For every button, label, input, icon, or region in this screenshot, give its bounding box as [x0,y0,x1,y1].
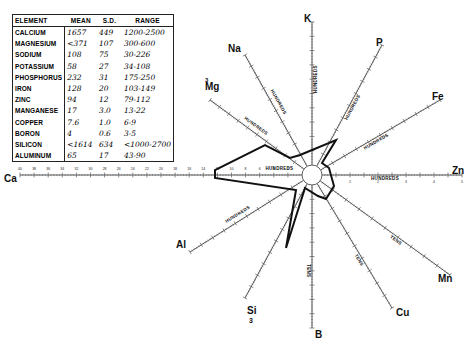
zn-tick-label: 4 [433,180,435,184]
ca-tick-label: 32 [74,167,78,171]
ca-tick-label: 18 [173,167,177,171]
ca-tick-label: 10 [230,167,234,171]
axis-unit-k: HUNDREDS [313,65,318,93]
axis-label-na: Na [228,43,241,54]
axis-label-k: K [304,13,312,24]
ca-tick-label: 38 [32,167,36,171]
ca-tick-label: 4 [273,167,275,171]
axis-unit-al: HUNDREDS [224,205,250,224]
zn-tick-label: 1 [349,180,351,184]
center-circle [302,165,322,185]
axis-sub-si: 3 [249,317,253,324]
zn-tick-label: 3 [405,180,407,184]
axis-unit-b: TENS [306,264,311,277]
axis-label-mn: Mn [438,273,452,284]
ca-tick-label: 30 [89,167,93,171]
axis-label-al: Al [176,239,186,250]
axis-labels-group: HUNDREDSKHUNDREDSPHUNDREDSFeHUNDREDSZnTE… [4,13,464,340]
ca-tick-label: 20 [159,167,163,171]
axis-label-cu: Cu [396,307,409,318]
axes-group [20,22,462,328]
ca-tick-label: 14 [201,167,205,171]
axis-unit-cu: TENS [354,253,365,267]
ca-tick-label: 22 [145,167,149,171]
ca-tick-label: 2 [287,167,289,171]
zn-tick-label: 5 [461,180,463,184]
ca-tick-label: 34 [60,167,64,171]
axis-label-zn: Zn [452,165,464,176]
axis-label-fe: Fe [432,91,444,102]
axis-label-b: B [315,329,322,340]
ca-tick-label: 26 [117,167,121,171]
axis-unit-ca: HUNDREDS [265,166,293,171]
ca-tick-label: 12 [215,167,219,171]
ca-tick-label: 40 [18,167,22,171]
axis-unit-mg: HUNDREDS [243,116,268,137]
ca-tick-label: 36 [46,167,50,171]
ca-tick-label: 16 [187,167,191,171]
axis-unit-zn: HUNDREDS [371,176,399,181]
axis-unit-mn: TENS [389,234,403,246]
axis-unit-na: HUNDREDS [270,89,288,116]
radar-diagram: HUNDREDSKHUNDREDSPHUNDREDSFeHUNDREDSZnTE… [0,0,475,340]
ca-tick-label: 8 [245,167,247,171]
axis-label-si: Si [247,305,257,316]
ca-tick-label: 28 [103,167,107,171]
axis-unit-fe: HUNDREDS [363,132,390,150]
zn-tick-label: 2 [377,180,379,184]
axis-label-p: P [376,37,383,48]
ca-tick-label: 24 [131,167,135,171]
profile-polygon [215,140,336,248]
axis-label-ca: Ca [4,173,17,184]
ca-tick-label: 6 [259,167,261,171]
